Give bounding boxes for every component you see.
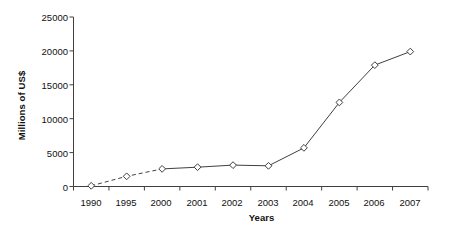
data-point-marker xyxy=(123,173,130,180)
data-point-marker xyxy=(265,162,272,169)
data-point-marker xyxy=(230,162,237,169)
data-point-marker xyxy=(159,165,166,172)
series-markers xyxy=(88,48,414,189)
line-chart: Millions of US$ 25000 20000 15000 10000 … xyxy=(0,0,449,234)
axis-lines xyxy=(74,17,429,187)
x-axis-ticks xyxy=(74,187,429,191)
plot-area xyxy=(0,0,449,234)
data-point-marker xyxy=(88,182,95,189)
y-axis-ticks xyxy=(70,17,74,187)
series-line-solid xyxy=(162,52,410,169)
data-point-marker xyxy=(194,164,201,171)
data-point-marker xyxy=(407,48,414,55)
